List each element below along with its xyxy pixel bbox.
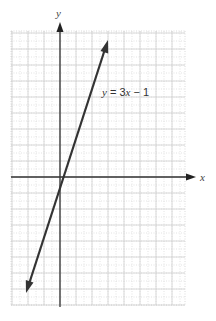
y-axis-arrow-icon (57, 22, 64, 32)
line-equation-label: y = 3x − 1 (101, 86, 149, 98)
x-axis-arrow-icon (186, 174, 196, 181)
line-lower-arrow-icon (26, 280, 34, 293)
y-axis-label: y (55, 7, 61, 19)
coordinate-plane: x y y = 3x − 1 (0, 0, 216, 321)
x-axis-label: x (199, 171, 205, 183)
line-upper-arrow-icon (101, 40, 109, 54)
